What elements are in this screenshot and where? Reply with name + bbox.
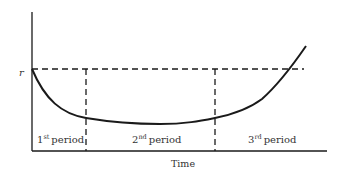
period-label-1: 1stperiod [37, 133, 85, 145]
y-axis-label: r [19, 67, 25, 78]
x-axis-label: Time [171, 158, 195, 169]
bathtub-curve-diagram: r 1stperiod 2ndperiod 3rdperiod Time [0, 0, 345, 177]
period-label-3: 3rdperiod [248, 133, 297, 145]
bathtub-curve [32, 46, 306, 124]
period-label-2: 2ndperiod [132, 133, 182, 145]
